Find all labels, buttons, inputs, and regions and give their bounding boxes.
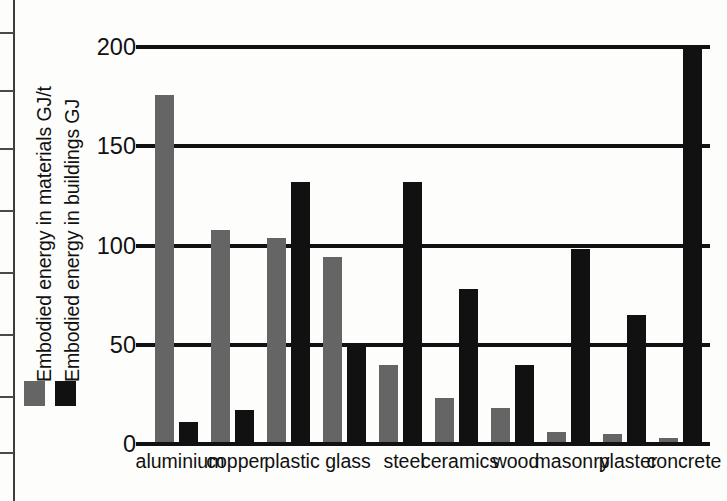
y-tick-50	[136, 343, 150, 347]
x-tick-label-plastic: plastic	[264, 450, 319, 473]
y-tick-0	[136, 442, 150, 446]
y-tick-label-100: 100	[97, 232, 136, 259]
bar-ceramics-materials	[435, 398, 454, 444]
bar-concrete-buildings	[683, 45, 702, 444]
page-edge-rule	[0, 452, 14, 454]
bar-copper-buildings	[235, 410, 254, 444]
bar-ceramics-buildings	[459, 289, 478, 444]
y-tick-label-0: 0	[123, 431, 136, 458]
bar-plastic-buildings	[291, 182, 310, 444]
bar-steel-materials	[379, 365, 398, 444]
y-axis-tick-labels: 200150100500	[62, 45, 136, 444]
chart-page: Embodied energy in materials GJ/t Embodi…	[0, 0, 727, 501]
bar-plaster-buildings	[627, 315, 646, 444]
page-edge-rule	[0, 396, 14, 398]
bar-glass-buildings	[347, 345, 366, 444]
bar-series-container	[150, 45, 710, 444]
page-edge-rule	[0, 148, 14, 150]
bar-plastic-materials	[267, 238, 286, 444]
bar-group-aluminium	[150, 45, 206, 444]
bar-group-plastic	[262, 45, 318, 444]
bar-wood-buildings	[515, 365, 534, 444]
bar-group-plaster	[598, 45, 654, 444]
bar-group-copper	[206, 45, 262, 444]
bar-group-glass	[318, 45, 374, 444]
y-tick-200	[136, 45, 150, 49]
bar-group-ceramics	[430, 45, 486, 444]
x-tick-label-wood: wood	[493, 450, 540, 473]
bar-masonry-buildings	[571, 249, 590, 444]
legend-swatch-materials	[24, 381, 45, 406]
y-tick-label-50: 50	[110, 331, 136, 358]
page-edge-rule	[0, 32, 14, 34]
bar-group-concrete	[654, 45, 710, 444]
page-edge-rule	[0, 210, 14, 212]
y-tick-100	[136, 244, 150, 248]
bar-group-masonry	[542, 45, 598, 444]
x-axis-baseline	[150, 442, 710, 446]
y-tick-label-150: 150	[97, 133, 136, 160]
x-tick-label-ceramics: ceramics	[421, 450, 499, 473]
y-tick-label-200: 200	[97, 34, 136, 61]
x-tick-label-concrete: concrete	[647, 450, 722, 473]
page-edge-rule	[0, 90, 14, 92]
page-edge-rule	[0, 272, 14, 274]
bar-glass-materials	[323, 257, 342, 444]
bar-copper-materials	[211, 230, 230, 444]
bar-group-wood	[486, 45, 542, 444]
bar-aluminium-buildings	[179, 422, 198, 444]
x-tick-label-copper: copper	[206, 450, 266, 473]
x-tick-label-glass: glass	[325, 450, 371, 473]
x-tick-label-steel: steel	[383, 450, 424, 473]
bar-aluminium-materials	[155, 95, 174, 444]
bar-steel-buildings	[403, 182, 422, 444]
y-tick-150	[136, 144, 150, 148]
x-axis-tick-labels: aluminiumcopperplasticglasssteelceramics…	[150, 450, 725, 480]
bar-wood-materials	[491, 408, 510, 444]
plot-area: 200150100500	[150, 45, 710, 444]
axis-title-materials: Embodied energy in materials GJ/t	[33, 86, 56, 382]
page-edge-rule	[0, 334, 14, 336]
bar-group-steel	[374, 45, 430, 444]
